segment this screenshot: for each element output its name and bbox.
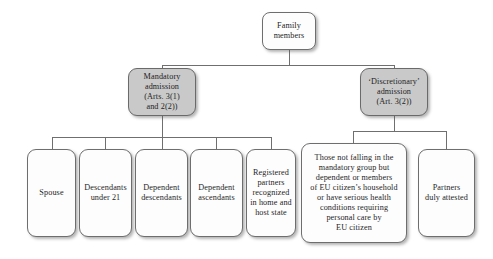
node-family-members[interactable]: Familymembers [262, 12, 316, 50]
node-those-not-falling[interactable]: Those not falling in themandatory group … [301, 143, 407, 243]
node-dependent-descendants-label: Dependentdescendants [139, 183, 184, 203]
node-partners-duly-attested[interactable]: Partnersduly attested [418, 149, 475, 237]
node-partners-duly-attested-label: Partnersduly attested [423, 183, 470, 203]
node-discretionary-admission[interactable]: ‘Discretionary’admission(Art. 3(2)) [360, 68, 428, 116]
node-mandatory-admission-label: Mandatoryadmission(Arts. 3(1)and 2(2)) [142, 72, 183, 112]
node-dependent-descendants[interactable]: Dependentdescendants [135, 149, 188, 237]
node-spouse-label: Spouse [37, 188, 65, 198]
node-those-not-falling-label: Those not falling in themandatory group … [308, 153, 399, 233]
node-mandatory-admission[interactable]: Mandatoryadmission(Arts. 3(1)and 2(2)) [128, 68, 196, 116]
node-registered-partners-label: Registeredpartnersrecognizedin home andh… [248, 168, 294, 218]
node-dependent-ascendants[interactable]: Dependentascendants [190, 149, 243, 237]
node-family-members-label: Familymembers [272, 21, 307, 41]
node-registered-partners[interactable]: Registeredpartnersrecognizedin home andh… [246, 149, 296, 237]
node-spouse[interactable]: Spouse [27, 149, 76, 237]
node-dependent-ascendants-label: Dependentascendants [196, 183, 236, 203]
node-discretionary-admission-label: ‘Discretionary’admission(Art. 3(2)) [366, 77, 422, 107]
node-descendants-under-21[interactable]: Descendantsunder 21 [79, 149, 132, 237]
node-descendants-under-21-label: Descendantsunder 21 [82, 183, 128, 203]
diagram-canvas: Familymembers Mandatoryadmission(Arts. 3… [0, 0, 493, 259]
